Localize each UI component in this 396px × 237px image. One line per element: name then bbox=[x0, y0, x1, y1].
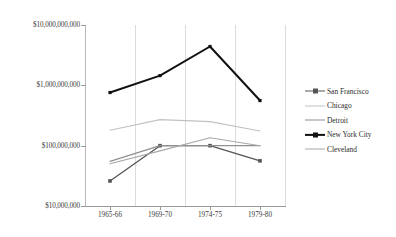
series-marker bbox=[258, 99, 261, 102]
series-line bbox=[110, 120, 260, 131]
series-line bbox=[110, 47, 260, 101]
series-marker bbox=[108, 91, 111, 94]
legend-swatch-icon bbox=[305, 129, 325, 141]
series-marker bbox=[158, 74, 161, 77]
legend-line bbox=[305, 120, 325, 121]
legend-swatch-icon bbox=[305, 85, 325, 97]
legend-line bbox=[305, 105, 325, 106]
legend-swatch-icon bbox=[305, 143, 325, 155]
line-chart: $10,000,000,000$1,000,000,000$100,000,00… bbox=[0, 0, 396, 237]
legend-swatch-icon bbox=[305, 100, 325, 112]
legend-item-cleveland[interactable]: Cleveland bbox=[305, 142, 372, 157]
legend-label: Cleveland bbox=[327, 146, 357, 153]
legend-label: Detroit bbox=[327, 117, 348, 124]
series-line bbox=[110, 146, 260, 181]
legend-label: New York City bbox=[327, 131, 372, 138]
legend-marker bbox=[313, 132, 318, 137]
legend-item-detroit[interactable]: Detroit bbox=[305, 113, 372, 128]
series-marker bbox=[208, 45, 211, 48]
legend-item-san-francisco[interactable]: San Francisco bbox=[305, 84, 372, 99]
legend-swatch-icon bbox=[305, 114, 325, 126]
legend-item-chicago[interactable]: Chicago bbox=[305, 99, 372, 114]
legend-label: San Francisco bbox=[327, 88, 369, 95]
series-line bbox=[110, 138, 260, 164]
chart-legend: San FranciscoChicagoDetroitNew York City… bbox=[305, 84, 372, 157]
legend-label: Chicago bbox=[327, 102, 352, 109]
legend-line bbox=[305, 149, 325, 150]
series-marker bbox=[108, 179, 112, 183]
legend-item-new-york-city[interactable]: New York City bbox=[305, 128, 372, 143]
series-marker bbox=[258, 159, 262, 163]
legend-marker bbox=[313, 89, 318, 94]
